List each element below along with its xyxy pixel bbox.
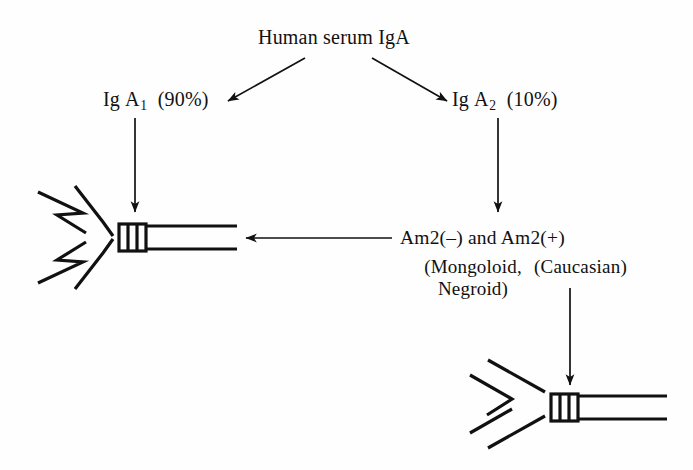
iga1-letter: A [125, 88, 140, 110]
arrow-root-to-iga1 [228, 58, 305, 101]
iga2-antibody-molecule [470, 360, 667, 448]
iga1-prefix: Ig [103, 88, 120, 110]
iga1-antibody-molecule [38, 186, 237, 289]
iga2-prefix: Ig [452, 88, 469, 110]
root-node-label: Human serum IgA [258, 26, 410, 50]
iga1-subscript: 1 [140, 98, 148, 113]
iga2-subscript: 2 [489, 98, 497, 113]
population-line-1: (Mongoloid, [393, 256, 553, 278]
iga2-branch-label: Ig A2 (10%) [452, 88, 558, 114]
population-line-2: Negroid) [393, 278, 553, 300]
iga1-branch-label: Ig A1 (90%) [103, 88, 209, 114]
population-mongoloid-negroid-label: (Mongoloid, Negroid) [393, 256, 553, 301]
iga2-percent: (10%) [507, 88, 558, 110]
iga2-letter: A [474, 88, 489, 110]
iga-subclass-diagram: Human serum IgA Ig A1 (90%) Ig A2 (10%) … [0, 0, 693, 470]
diagram-canvas [0, 0, 693, 470]
iga1-percent: (90%) [158, 88, 209, 110]
allotype-label: Am2(–) and Am2(+) [400, 226, 565, 249]
population-caucasian-label: (Caucasian) [534, 256, 627, 278]
arrow-root-to-iga2 [372, 58, 447, 101]
